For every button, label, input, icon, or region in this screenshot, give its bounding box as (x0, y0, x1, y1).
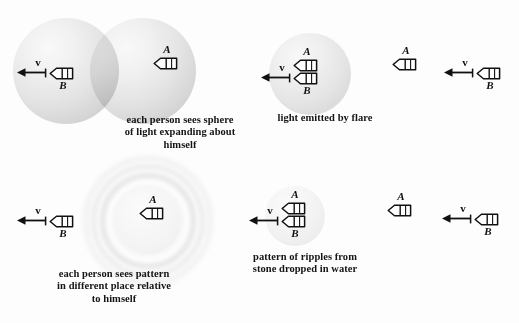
velocity-label: v (35, 57, 41, 68)
observer-label-b: B (303, 85, 310, 96)
craft-a-later[interactable] (387, 204, 413, 217)
observer-label-a: A (303, 46, 310, 57)
ripple-pattern (88, 161, 208, 281)
velocity-arrow (444, 67, 474, 79)
sphere-a (90, 18, 196, 124)
velocity-arrow (442, 213, 472, 225)
velocity-label: v (462, 57, 468, 68)
velocity-arrow (249, 215, 279, 227)
craft-a-center[interactable] (139, 207, 165, 220)
craft-b[interactable] (49, 67, 75, 80)
craft-a-later[interactable] (392, 58, 418, 71)
ripple-core (115, 188, 181, 254)
velocity-arrow (17, 215, 47, 227)
craft-b-later[interactable] (476, 67, 502, 80)
velocity-label: v (267, 205, 273, 216)
caption-bottom-right: pattern of ripples from stone dropped in… (253, 251, 357, 276)
figure-canvas: BvAABvABvBvAABvABveach person sees spher… (0, 0, 519, 323)
craft-a-coincident[interactable] (281, 202, 307, 215)
velocity-arrow (261, 72, 291, 84)
observer-label-b: B (59, 228, 66, 239)
observer-label-b: B (486, 80, 493, 91)
observer-label-a: A (149, 194, 156, 205)
velocity-arrow (17, 67, 47, 79)
caption-top-left: each person sees sphere of light expandi… (125, 114, 236, 151)
craft-b-coincident[interactable] (281, 215, 307, 228)
velocity-label: v (35, 205, 41, 216)
observer-label-a: A (163, 44, 170, 55)
craft-b-offset[interactable] (49, 215, 75, 228)
caption-bottom-left: each person sees pattern in different pl… (57, 268, 171, 305)
observer-label-a: A (402, 45, 409, 56)
craft-b-coincident[interactable] (293, 72, 319, 85)
craft-a[interactable] (153, 57, 179, 70)
observer-label-a: A (397, 191, 404, 202)
craft-b-later[interactable] (474, 213, 500, 226)
observer-label-b: B (484, 226, 491, 237)
velocity-label: v (279, 62, 285, 73)
velocity-label: v (460, 203, 466, 214)
craft-a-coincident[interactable] (293, 59, 319, 72)
caption-top-right: light emitted by flare (277, 112, 372, 124)
observer-label-b: B (59, 80, 66, 91)
observer-label-b: B (291, 228, 298, 239)
observer-label-a: A (291, 189, 298, 200)
